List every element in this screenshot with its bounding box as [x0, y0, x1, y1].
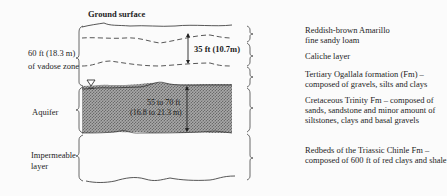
- trinity-label-line2: sands, sandstone and minor amount of: [305, 105, 435, 116]
- ground-surface-label: Ground surface: [88, 9, 145, 20]
- trinity-brace: [247, 88, 253, 132]
- aquifer-thickness-ft-label: 55 to 70 ft: [147, 98, 180, 109]
- soil-caliche-boundary: [82, 35, 232, 43]
- chinle-label-line1: Redbeds of the Triassic Chinle Fm –: [305, 145, 429, 156]
- ogallala-label-line2: composed of gravels, silts and clays: [305, 79, 427, 90]
- aquifer-label: Aquifer: [32, 107, 58, 118]
- caliche-thickness-label: 35 ft (10.7m): [194, 44, 240, 55]
- aquifer-brace: [76, 87, 83, 133]
- ogallala-label-line1: Tertiary Ogallala formation (Fm) –: [305, 69, 424, 80]
- vadose-depth-label: 60 ft (18.3 m): [28, 48, 75, 59]
- caliche-label: Caliche layer: [305, 51, 350, 62]
- soil-brace: [247, 26, 253, 42]
- vadose-brace: [76, 26, 83, 86]
- impermeable-brace: [76, 135, 83, 181]
- trinity-label-line1: Cretaceous Trinity Fm – composed of: [305, 95, 434, 106]
- ground-surface-line: [82, 23, 232, 27]
- caliche-ogallala-boundary: [82, 61, 232, 66]
- impermeable-bottom-line: [86, 176, 235, 183]
- aquifer-thickness-m-label: (16.8 to 21.3 m): [130, 108, 182, 119]
- chinle-brace: [247, 134, 253, 180]
- chinle-label-line2: composed of 600 ft of red clays and shal…: [305, 155, 447, 166]
- impermeable-label-line1: Impermeable: [31, 150, 76, 161]
- soil-label-line1: Reddish-brown Amarillo: [305, 25, 390, 36]
- ogallala-brace: [247, 67, 253, 87]
- impermeable-label-line2: layer: [31, 161, 48, 172]
- soil-label-line2: fine sandy loam: [305, 35, 359, 46]
- caliche-brace: [247, 43, 253, 66]
- trinity-label-line3: siltstones, clays and basal gravels: [305, 115, 419, 126]
- vadose-zone-label: of vadose zone: [28, 61, 79, 72]
